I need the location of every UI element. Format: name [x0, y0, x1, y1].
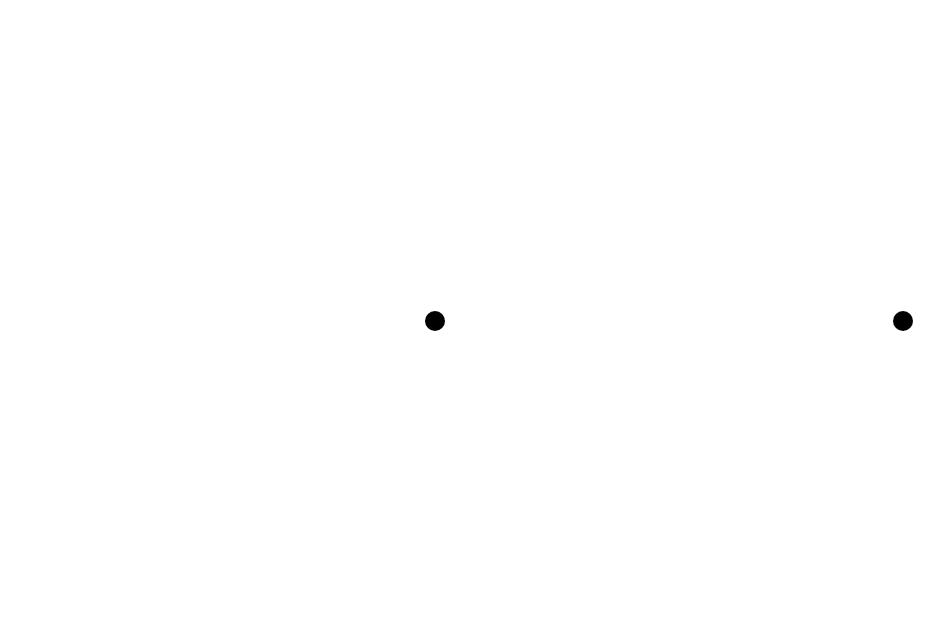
dot-left [425, 311, 445, 331]
blank-canvas [0, 0, 939, 636]
dot-right [893, 311, 913, 331]
